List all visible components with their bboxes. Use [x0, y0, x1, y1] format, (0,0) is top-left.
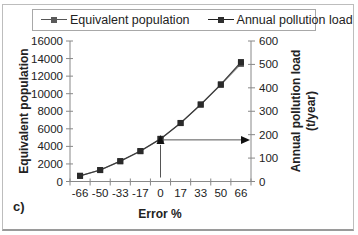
y-tick-label-left: 6000	[37, 123, 63, 135]
y-tick-label-left: 14000	[31, 53, 63, 65]
arrow-right-icon	[241, 136, 250, 144]
plot-area: 0200040006000800010000120001400016000010…	[0, 0, 358, 235]
x-tick-label: 0	[157, 187, 163, 199]
y-axis-title-right: Annual pollution load	[289, 50, 303, 173]
panel-label: c)	[13, 199, 25, 214]
annotation-arrows	[157, 135, 251, 178]
y-tick-label-left: 0	[57, 176, 63, 188]
data-point-marker	[218, 81, 224, 87]
data-point-marker	[137, 148, 143, 154]
data-point-marker	[238, 59, 244, 65]
y-axis-title-right-unit: (t/year)	[304, 91, 318, 131]
y-axis-title-left: Equivalent population	[17, 48, 31, 173]
x-axis-title: Error %	[138, 207, 182, 221]
data-point-marker	[198, 101, 204, 107]
y-tick-label-right: 400	[259, 82, 278, 94]
y-tick-label-right: 0	[259, 176, 265, 188]
y-tick-label-left: 2000	[37, 158, 63, 170]
x-tick-label: 50	[214, 187, 227, 199]
x-tick-label: -17	[132, 187, 149, 199]
data-point-marker	[97, 167, 103, 173]
y-tick-label-right: 500	[259, 58, 278, 70]
x-tick-label: -50	[92, 187, 109, 199]
data-point-marker	[178, 120, 184, 126]
y-tick-label-left: 10000	[31, 88, 63, 100]
data-point-marker	[77, 173, 83, 179]
x-tick-label: 66	[235, 187, 248, 199]
x-tick-label: -33	[112, 187, 129, 199]
y-tick-label-left: 16000	[31, 35, 63, 47]
y-tick-label-right: 100	[259, 152, 278, 164]
y-tick-label-left: 4000	[37, 140, 63, 152]
y-tick-label-right: 600	[259, 35, 278, 47]
x-tick-label: -66	[72, 187, 89, 199]
x-tick-label: 33	[194, 187, 207, 199]
data-point-marker	[117, 158, 123, 164]
x-tick-label: 17	[174, 187, 187, 199]
y-tick-label-left: 12000	[31, 70, 63, 82]
y-tick-label-right: 300	[259, 105, 278, 117]
y-tick-label-left: 8000	[37, 105, 63, 117]
y-tick-label-right: 200	[259, 129, 278, 141]
